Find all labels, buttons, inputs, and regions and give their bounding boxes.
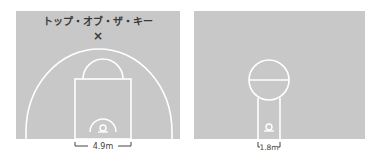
dimension-bracket-right [118, 142, 131, 146]
left-court-diagram: トップ・オブ・ザ・キー × 4.9m [16, 11, 180, 151]
dimension-bracket-left [75, 142, 88, 146]
top-of-the-key-label: トップ・オブ・ザ・キー [43, 15, 153, 27]
court-diagrams: トップ・オブ・ザ・キー × 4.9m 1.8m [0, 0, 377, 161]
key-width-dimension: 4.9m [93, 142, 114, 151]
lane-width-dimension: 1.8m [259, 143, 278, 152]
top-of-key-marker-icon: × [93, 29, 103, 43]
right-court-diagram: 1.8m [194, 11, 365, 152]
